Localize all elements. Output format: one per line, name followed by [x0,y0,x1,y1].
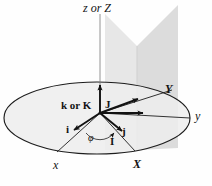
angle-label-phi: φ [88,133,94,143]
vector-label-i: i [66,124,69,135]
diagram-canvas [0,0,212,186]
axis-label-X: X [133,158,141,170]
origin-point [99,112,102,115]
axis-label-z: z or Z [83,2,111,14]
vector-label-j: j [122,126,126,137]
axis-label-x: x [53,159,58,171]
vector-diagram-figure: z or Z Y y x X k or K J j i I φ [0,0,212,186]
vector-label-J: J [105,99,111,110]
vector-label-k-or-K: k or K [61,100,91,111]
axis-label-Y: Y [165,83,172,95]
vector-label-I: I [110,136,114,147]
axis-label-y: y [195,110,200,122]
